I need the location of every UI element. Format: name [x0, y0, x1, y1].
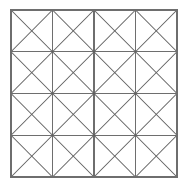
grid-diagram — [0, 0, 191, 185]
figure-canvas — [0, 0, 191, 185]
